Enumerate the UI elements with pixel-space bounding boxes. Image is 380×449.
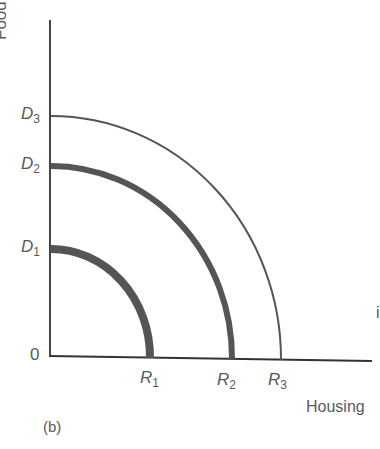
label-r2: R2 (217, 370, 236, 392)
label-d1-letter: D (21, 237, 33, 256)
x-axis-label: Housing (306, 398, 365, 416)
label-d2: D2 (21, 154, 40, 176)
label-r2-sub: 2 (229, 378, 236, 392)
label-r3-sub: 3 (280, 378, 287, 392)
label-r1-letter: R (140, 368, 152, 387)
curve-d3-r3 (51, 116, 281, 360)
label-r3-letter: R (268, 370, 280, 389)
stray-character: i (376, 304, 380, 322)
curve-d2-r2 (51, 166, 232, 359)
y-axis-label: Food (0, 0, 11, 40)
label-r2-letter: R (217, 370, 229, 389)
label-r1-sub: 1 (152, 376, 159, 390)
panel-label: (b) (43, 418, 61, 435)
label-r3: R3 (268, 370, 287, 392)
origin-label: 0 (30, 345, 39, 365)
label-d2-letter: D (21, 154, 33, 173)
label-d1: D1 (21, 237, 40, 259)
label-d3-sub: 3 (33, 112, 40, 126)
label-d3: D3 (21, 104, 40, 126)
x-axis (49, 356, 372, 361)
label-d1-sub: 1 (33, 245, 40, 259)
label-d3-letter: D (21, 104, 33, 123)
label-r1: R1 (140, 368, 159, 390)
label-d2-sub: 2 (33, 162, 40, 176)
curve-d1-r1 (51, 249, 150, 358)
indifference-curves-diagram (0, 0, 380, 449)
